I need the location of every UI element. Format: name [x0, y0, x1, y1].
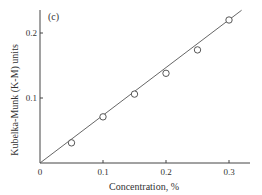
data-point — [131, 91, 137, 97]
y-tick-label: 0.1 — [26, 93, 37, 103]
x-tick-label: 0.1 — [97, 167, 108, 177]
data-point — [163, 70, 169, 76]
chart: 00.10.20.30.10.2 (c) Concentration, % Ku… — [0, 0, 262, 195]
tick-labels: 00.10.20.30.10.2 — [26, 28, 235, 177]
x-tick-label: 0.2 — [160, 167, 171, 177]
x-axis-label: Concentration, % — [109, 181, 179, 192]
data-point — [68, 140, 74, 146]
data-point — [194, 47, 200, 53]
panel-label: (c) — [48, 11, 59, 23]
y-axis-label: Kubelka-Munk (K-M) units — [9, 44, 21, 156]
data-point — [226, 17, 232, 23]
x-tick-label: 0.3 — [223, 167, 235, 177]
y-tick-label: 0.2 — [26, 28, 37, 38]
data-point — [100, 114, 106, 120]
x-tick-label: 0 — [38, 167, 43, 177]
